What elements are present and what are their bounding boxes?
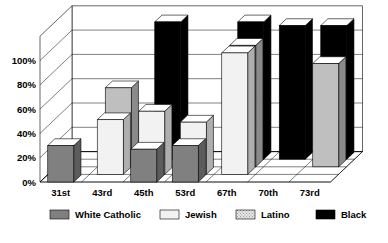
legend-swatch-latino bbox=[236, 210, 255, 219]
y-axis-tick-labels: 0%20%40%60%80%100% bbox=[12, 55, 37, 188]
legend-item-jewish[interactable]: Jewish bbox=[160, 209, 217, 220]
legend-swatch-black bbox=[316, 210, 335, 219]
legend-item-latino[interactable]: Latino bbox=[236, 209, 290, 220]
y-tick-80%: 80% bbox=[17, 79, 37, 90]
y-tick-100%: 100% bbox=[12, 55, 37, 66]
legend-label-latino: Latino bbox=[261, 209, 290, 220]
y-tick-60%: 60% bbox=[17, 104, 37, 115]
legend-swatch-jewish bbox=[160, 210, 179, 219]
x-category-53rd: 53rd bbox=[175, 187, 195, 198]
x-category-67th: 67th bbox=[217, 187, 237, 198]
x-axis-category-labels: 31st43rd45th53rd67th70th73rd bbox=[51, 187, 320, 198]
legend-item-white-catholic[interactable]: White Catholic bbox=[50, 209, 141, 220]
y-tick-20%: 20% bbox=[17, 152, 37, 163]
bar-43rd-jewish bbox=[97, 113, 130, 174]
x-category-73rd: 73rd bbox=[300, 187, 320, 198]
bar-73rd-latino bbox=[313, 57, 346, 167]
bar-53rd-white-catholic bbox=[172, 139, 205, 182]
bar-70th-black bbox=[279, 19, 312, 159]
legend-label-jewish: Jewish bbox=[185, 209, 217, 220]
y-tick-0%: 0% bbox=[22, 177, 36, 188]
bar-67th-jewish bbox=[222, 46, 255, 174]
bar-chart-3d: 0%20%40%60%80%100% 31st43rd45th53rd67th7… bbox=[0, 0, 388, 243]
bar-45th-white-catholic bbox=[131, 142, 164, 182]
x-category-70th: 70th bbox=[258, 187, 278, 198]
chart-legend: White CatholicJewishLatinoBlack bbox=[50, 209, 367, 220]
y-tick-40%: 40% bbox=[17, 128, 37, 139]
legend-label-white-catholic: White Catholic bbox=[75, 209, 141, 220]
legend-swatch-white-catholic bbox=[50, 210, 69, 219]
x-category-45th: 45th bbox=[134, 187, 154, 198]
bar-31st-white-catholic bbox=[48, 139, 81, 182]
x-category-31st: 31st bbox=[51, 187, 71, 198]
x-category-43rd: 43rd bbox=[92, 187, 112, 198]
legend-label-black: Black bbox=[341, 209, 367, 220]
chart-canvas: 0%20%40%60%80%100% 31st43rd45th53rd67th7… bbox=[0, 0, 388, 243]
legend-item-black[interactable]: Black bbox=[316, 209, 367, 220]
